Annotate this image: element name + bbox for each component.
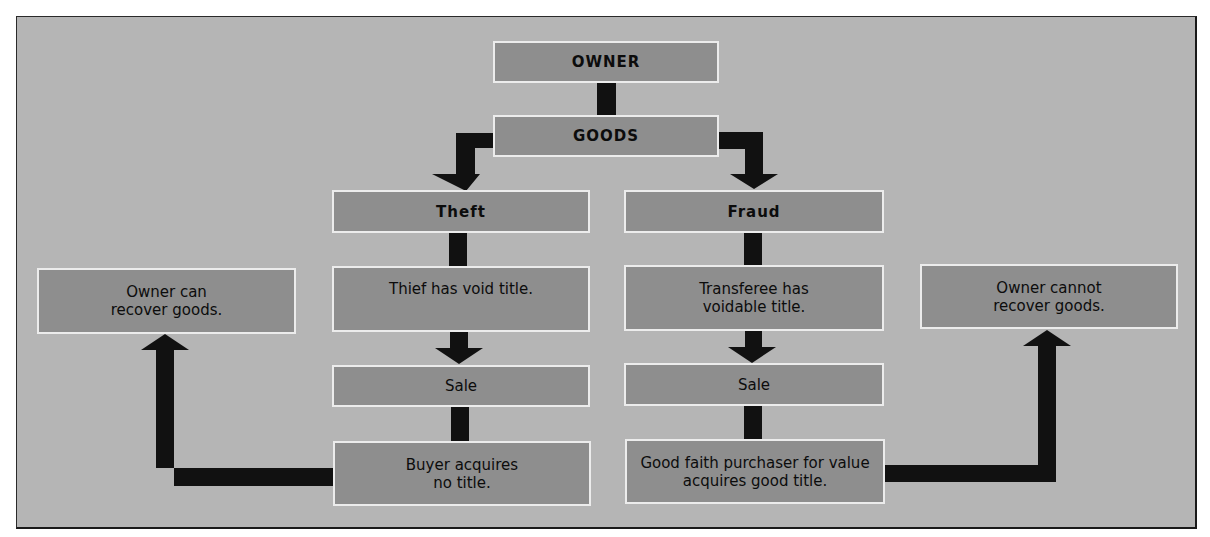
node-owner-cannot-label: Owner cannot recover goods. [977,279,1121,315]
node-transferee-voidable: Transferee has voidable title. [624,265,884,331]
node-fraud-label: Fraud [727,203,780,221]
node-sale-left: Sale [332,365,590,407]
node-buyer-no-title-label: Buyer acquires no title. [405,456,519,492]
node-thief-void-label: Thief has void title. [389,280,533,298]
arrow-goodfaith-ownercannot [884,330,1071,482]
node-owner-label: OWNER [572,53,641,71]
node-owner-cannot: Owner cannot recover goods. [920,264,1178,329]
node-good-faith-label: Good faith purchaser for value acquires … [633,454,877,490]
arrow-transferee-sale [728,330,776,363]
node-good-faith: Good faith purchaser for value acquires … [625,439,885,504]
node-goods: GOODS [493,115,719,157]
arrow-goods-fraud [719,132,778,189]
node-owner-can: Owner can recover goods. [37,268,296,334]
node-theft: Theft [332,190,590,233]
arrow-goods-theft [432,133,493,191]
node-sale-right: Sale [624,363,884,406]
node-owner: OWNER [493,41,719,83]
node-transferee-voidable-label: Transferee has voidable title. [686,280,822,316]
node-sale-left-label: Sale [445,377,477,395]
node-theft-label: Theft [436,203,486,221]
node-thief-void: Thief has void title. [332,266,590,332]
arrow-thief-sale [435,331,483,364]
node-goods-label: GOODS [573,127,639,145]
arrow-buyer-ownercan [141,334,334,486]
node-buyer-no-title: Buyer acquires no title. [333,441,591,506]
node-fraud: Fraud [624,190,884,233]
node-owner-can-label: Owner can recover goods. [99,283,234,319]
node-sale-right-label: Sale [738,376,770,394]
